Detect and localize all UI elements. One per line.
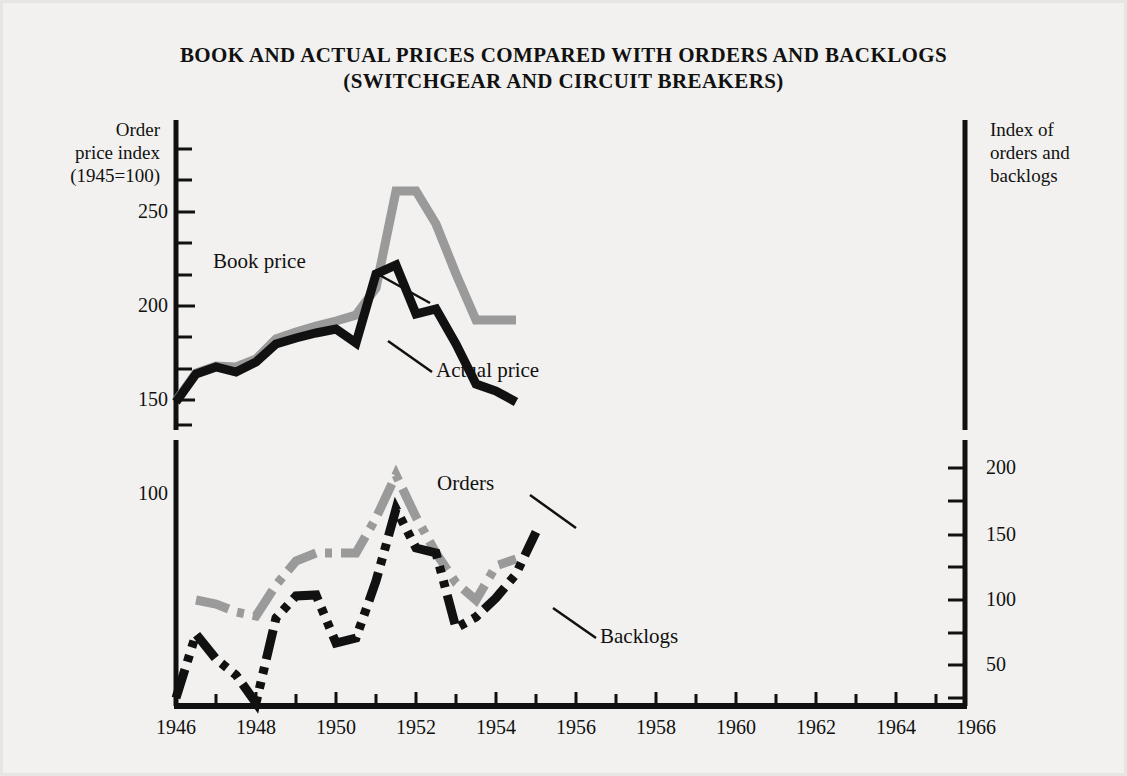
xtick-label-1964: 1964 [866,716,926,739]
chart-svg [0,0,1127,776]
ytick-label-upper-150: 150 [88,388,168,411]
xtick-label-1958: 1958 [626,716,686,739]
xtick-label-1948: 1948 [226,716,286,739]
upper-panel-axes [176,120,965,430]
xtick-label-1946: 1946 [146,716,206,739]
ytick-label-lower-100: 100 [986,588,1046,611]
ytick-label-upper-100: 100 [88,482,168,505]
ytick-label-upper-250: 250 [88,200,168,223]
figure-page: BOOK AND ACTUAL PRICES COMPARED WITH ORD… [0,0,1127,776]
left-axis-caption-line-1: Order [20,118,160,141]
series-label-book-price: Book price [213,249,306,274]
lower-right-ticks [948,468,965,698]
ytick-label-lower-150: 150 [986,523,1046,546]
series-orders [196,475,516,616]
series-label-backlogs: Backlogs [600,624,678,649]
ytick-label-lower-50: 50 [986,653,1046,676]
xtick-label-1952: 1952 [386,716,446,739]
leader-actual-price [388,341,432,372]
right-axis-caption-line-2: orders and [990,141,1127,164]
xtick-label-1950: 1950 [306,716,366,739]
series-label-orders: Orders [437,471,494,496]
left-axis-caption-line-3: (1945=100) [20,164,160,187]
right-axis-caption: Index of orders and backlogs [990,118,1127,187]
chart-plot-area: Order price index (1945=100) Index of or… [0,0,1127,776]
left-axis-caption: Order price index (1945=100) [20,118,160,187]
ytick-label-lower-200: 200 [986,456,1046,479]
ytick-label-upper-200: 200 [88,294,168,317]
xtick-label-1954: 1954 [466,716,526,739]
right-axis-caption-line-1: Index of [990,118,1127,141]
xtick-label-1966: 1966 [946,716,1006,739]
xtick-label-1960: 1960 [706,716,766,739]
left-axis-caption-line-2: price index [20,141,160,164]
series-label-actual-price: Actual price [436,358,539,383]
leader-orders [530,495,576,528]
lower-panel-axes [174,440,967,706]
leader-backlogs [553,608,596,638]
series-backlogs [176,509,536,703]
xtick-label-1956: 1956 [546,716,606,739]
right-axis-caption-line-3: backlogs [990,164,1127,187]
xtick-label-1962: 1962 [786,716,846,739]
